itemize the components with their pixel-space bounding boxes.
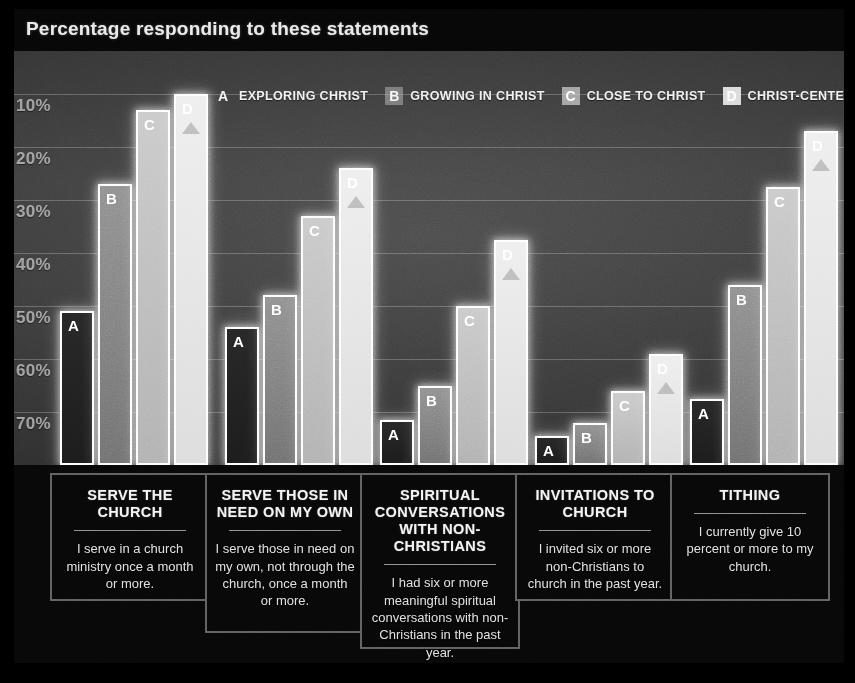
letterbox-top xyxy=(0,0,855,9)
bar: C xyxy=(766,187,800,465)
legend-item-c: CCLOSE TO CHRIST xyxy=(562,87,706,105)
bar: A xyxy=(690,399,724,465)
bar-series-letter: C xyxy=(309,223,320,238)
bar: D xyxy=(339,168,373,465)
chart-legend: AEXPLORING CHRISTBGROWING IN CHRISTCCLOS… xyxy=(214,87,844,105)
bar-group: ABCD xyxy=(225,51,373,465)
bar: A xyxy=(60,311,94,465)
bar: B xyxy=(98,184,132,465)
caption-heading: SERVE THOSE IN NEED ON MY OWN xyxy=(215,487,355,521)
legend-label: GROWING IN CHRIST xyxy=(410,89,544,103)
bar-series-letter: A xyxy=(543,443,554,458)
caption-heading: SERVE THE CHURCH xyxy=(60,487,200,521)
chart-plot-area: 70%60%50%40%30%20%10% ABCDABCDABCDABCDAB… xyxy=(14,51,844,465)
bar-series-letter: B xyxy=(426,393,437,408)
bar-series-letter: B xyxy=(106,191,117,206)
legend-label: CLOSE TO CHRIST xyxy=(587,89,706,103)
bar-series-letter: C xyxy=(464,313,475,328)
bar: D xyxy=(494,240,528,465)
legend-badge: D xyxy=(723,87,741,105)
bar: B xyxy=(418,386,452,466)
caption-heading: SPIRITUAL CONVERSATIONS WITH NON-CHRISTI… xyxy=(370,487,510,555)
bar-series-letter: C xyxy=(774,194,785,209)
up-arrow-icon xyxy=(347,196,365,208)
bar-series-letter: B xyxy=(271,302,282,317)
bar: D xyxy=(649,354,683,465)
bar-series-letter: A xyxy=(698,406,709,421)
bar: A xyxy=(380,420,414,465)
caption-heading: INVITATIONS TO CHURCH xyxy=(525,487,665,521)
bar-series-letter: A xyxy=(388,427,399,442)
caption-body: I currently give 10 percent or more to m… xyxy=(680,523,820,575)
infographic-poster: Percentage responding to these statement… xyxy=(0,0,855,683)
divider xyxy=(229,530,341,531)
divider xyxy=(694,513,806,514)
legend-badge: C xyxy=(562,87,580,105)
bar: C xyxy=(456,306,490,465)
letterbox-left xyxy=(0,0,14,683)
bar-series-letter: D xyxy=(347,175,358,190)
bar-group: ABCD xyxy=(380,51,528,465)
divider xyxy=(74,530,186,531)
up-arrow-icon xyxy=(182,122,200,134)
caption-card: TITHINGI currently give 10 percent or mo… xyxy=(670,473,830,601)
divider xyxy=(384,564,496,565)
page-title: Percentage responding to these statement… xyxy=(26,18,429,40)
bar-series-letter: D xyxy=(502,247,513,262)
legend-badge: B xyxy=(385,87,403,105)
bar-series-letter: C xyxy=(619,398,630,413)
up-arrow-icon xyxy=(812,159,830,171)
divider xyxy=(539,530,651,531)
bar: C xyxy=(611,391,645,465)
caption-card: INVITATIONS TO CHURCHI invited six or mo… xyxy=(515,473,675,601)
legend-badge: A xyxy=(214,87,232,105)
caption-card: SPIRITUAL CONVERSATIONS WITH NON-CHRISTI… xyxy=(360,473,520,649)
bar: B xyxy=(263,295,297,465)
caption-body: I serve those in need on my own, not thr… xyxy=(215,540,355,609)
caption-body: I serve in a church ministry once a mont… xyxy=(60,540,200,592)
caption-card: SERVE THE CHURCHI serve in a church mini… xyxy=(50,473,210,601)
letterbox-right xyxy=(844,0,855,683)
legend-item-d: DCHRIST-CENTERED xyxy=(723,87,844,105)
bar-series-letter: D xyxy=(657,361,668,376)
caption-body: I invited six or more non-Christians to … xyxy=(525,540,665,592)
bar-series-letter: A xyxy=(68,318,79,333)
up-arrow-icon xyxy=(502,268,520,280)
bar-series-letter: B xyxy=(581,430,592,445)
caption-cards: SERVE THE CHURCHI serve in a church mini… xyxy=(14,465,844,663)
bar-groups: ABCDABCDABCDABCDABCD xyxy=(14,51,844,465)
bar: A xyxy=(225,327,259,465)
bar-series-letter: A xyxy=(233,334,244,349)
caption-body: I had six or more meaningful spiritual c… xyxy=(370,574,510,660)
caption-card: SERVE THOSE IN NEED ON MY OWNI serve tho… xyxy=(205,473,365,633)
bar-series-letter: C xyxy=(144,117,155,132)
bar-group: ABCD xyxy=(690,51,838,465)
legend-label: EXPLORING CHRIST xyxy=(239,89,368,103)
letterbox-bottom xyxy=(0,663,855,683)
bar-series-letter: D xyxy=(182,101,193,116)
title-bar: Percentage responding to these statement… xyxy=(14,9,844,51)
bar: B xyxy=(573,423,607,465)
bar-group: ABCD xyxy=(60,51,208,465)
up-arrow-icon xyxy=(657,382,675,394)
legend-item-a: AEXPLORING CHRIST xyxy=(214,87,368,105)
bar: C xyxy=(136,110,170,465)
bar: C xyxy=(301,216,335,465)
caption-heading: TITHING xyxy=(680,487,820,504)
bar: A xyxy=(535,436,569,465)
bar: D xyxy=(804,131,838,465)
bar-series-letter: D xyxy=(812,138,823,153)
bar: B xyxy=(728,285,762,465)
legend-label: CHRIST-CENTERED xyxy=(748,89,844,103)
legend-item-b: BGROWING IN CHRIST xyxy=(385,87,544,105)
bar-group: ABCD xyxy=(535,51,683,465)
bar-series-letter: B xyxy=(736,292,747,307)
bar: D xyxy=(174,94,208,465)
